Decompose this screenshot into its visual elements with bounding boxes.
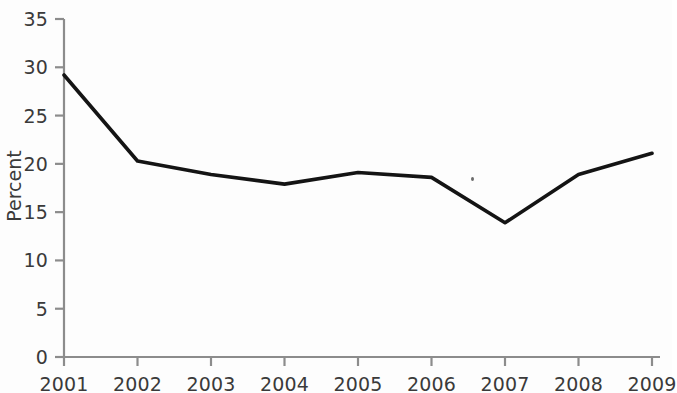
y-axis-tick-label: 0 <box>0 346 48 368</box>
x-axis-tick-label: 2001 <box>39 373 88 393</box>
x-axis-tick-label: 2003 <box>186 373 235 393</box>
x-axis-ticks <box>64 357 652 366</box>
x-axis-tick-label: 2008 <box>554 373 603 393</box>
y-axis-tick-label: 35 <box>0 8 48 30</box>
x-axis-tick-label: 2004 <box>260 373 309 393</box>
y-axis-tick-label: 10 <box>0 249 48 271</box>
x-axis-tick-label: 2002 <box>113 373 162 393</box>
x-axis-tick-label: 2005 <box>333 373 382 393</box>
y-axis-tick-label: 30 <box>0 56 48 78</box>
y-axis-tick-label: 5 <box>0 298 48 320</box>
data-series-line <box>64 75 652 223</box>
scan-artifact-speck <box>471 177 474 181</box>
x-axis-tick-label: 2006 <box>407 373 456 393</box>
y-axis-tick-label: 25 <box>0 105 48 127</box>
x-axis-tick-label: 2007 <box>480 373 529 393</box>
y-axis-title: Percent <box>3 150 25 222</box>
x-axis-tick-label: 2009 <box>627 373 676 393</box>
y-axis-ticks <box>55 19 64 357</box>
